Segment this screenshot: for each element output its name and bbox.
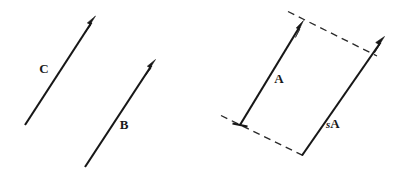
figure-background (0, 0, 405, 178)
vector-sa-label: sA (325, 116, 340, 131)
vector-sa-vector-label: A (330, 116, 340, 131)
vector-b-label: B (120, 117, 129, 132)
diagram-canvas: C B A (0, 0, 405, 178)
vector-diagram-figure: C B A (0, 0, 405, 178)
vector-a-label: A (274, 71, 284, 86)
vector-c-label: C (39, 61, 48, 76)
